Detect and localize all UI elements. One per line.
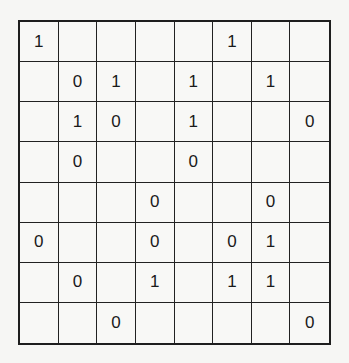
grid-cell-r5-c5[interactable] (175, 183, 214, 223)
grid-cell-r3-c1[interactable] (20, 102, 59, 142)
grid-cell-r6-c6[interactable]: 0 (213, 223, 252, 263)
grid-cell-r6-c3[interactable] (97, 223, 136, 263)
grid-cell-r3-c6[interactable] (213, 102, 252, 142)
grid-cell-r7-c3[interactable] (97, 263, 136, 303)
grid-cell-r3-c5[interactable]: 1 (175, 102, 214, 142)
grid-cell-r2-c5[interactable]: 1 (175, 62, 214, 102)
grid-cell-r7-c4[interactable]: 1 (136, 263, 175, 303)
grid-cell-r2-c6[interactable] (213, 62, 252, 102)
grid-cell-r8-c3[interactable]: 0 (97, 303, 136, 343)
grid-cell-r7-c8[interactable] (290, 263, 329, 303)
grid-cell-r4-c5[interactable]: 0 (175, 142, 214, 182)
grid-cell-r5-c3[interactable] (97, 183, 136, 223)
grid-cell-r1-c1[interactable]: 1 (20, 22, 59, 62)
grid-cell-r3-c7[interactable] (252, 102, 291, 142)
grid-cell-r1-c8[interactable] (290, 22, 329, 62)
grid-cell-r6-c5[interactable] (175, 223, 214, 263)
grid-cell-r4-c6[interactable] (213, 142, 252, 182)
grid-cell-r8-c7[interactable] (252, 303, 291, 343)
grid-cell-r1-c5[interactable] (175, 22, 214, 62)
grid-cell-r5-c4[interactable]: 0 (136, 183, 175, 223)
grid-cell-r7-c1[interactable] (20, 263, 59, 303)
grid-cell-r8-c8[interactable]: 0 (290, 303, 329, 343)
grid-cell-r8-c1[interactable] (20, 303, 59, 343)
grid-cell-r7-c2[interactable]: 0 (59, 263, 98, 303)
grid-cell-r5-c6[interactable] (213, 183, 252, 223)
grid-cell-r1-c4[interactable] (136, 22, 175, 62)
grid-cell-r4-c7[interactable] (252, 142, 291, 182)
grid-cell-r6-c2[interactable] (59, 223, 98, 263)
grid-cell-r7-c6[interactable]: 1 (213, 263, 252, 303)
grid-cell-r2-c4[interactable] (136, 62, 175, 102)
grid-cell-r3-c4[interactable] (136, 102, 175, 142)
grid-cell-r4-c3[interactable] (97, 142, 136, 182)
grid-cell-r6-c1[interactable]: 0 (20, 223, 59, 263)
grid-cell-r2-c7[interactable]: 1 (252, 62, 291, 102)
grid-cell-r5-c7[interactable]: 0 (252, 183, 291, 223)
grid-cell-r8-c5[interactable] (175, 303, 214, 343)
grid-cell-r6-c4[interactable]: 0 (136, 223, 175, 263)
grid-cell-r6-c7[interactable]: 1 (252, 223, 291, 263)
grid-cell-r4-c8[interactable] (290, 142, 329, 182)
grid-cell-r4-c1[interactable] (20, 142, 59, 182)
grid-cell-r8-c6[interactable] (213, 303, 252, 343)
grid-cell-r5-c2[interactable] (59, 183, 98, 223)
grid-cell-r1-c3[interactable] (97, 22, 136, 62)
grid-cell-r1-c6[interactable]: 1 (213, 22, 252, 62)
grid-cell-r2-c1[interactable] (20, 62, 59, 102)
grid-cell-r3-c8[interactable]: 0 (290, 102, 329, 142)
grid-cell-r7-c7[interactable]: 1 (252, 263, 291, 303)
grid-cell-r3-c3[interactable]: 0 (97, 102, 136, 142)
puzzle-grid: 110111101000000001011100 (18, 20, 331, 345)
grid-cell-r4-c2[interactable]: 0 (59, 142, 98, 182)
grid-cell-r5-c1[interactable] (20, 183, 59, 223)
grid-cell-r1-c7[interactable] (252, 22, 291, 62)
grid-cell-r3-c2[interactable]: 1 (59, 102, 98, 142)
grid-cell-r6-c8[interactable] (290, 223, 329, 263)
grid-cell-r8-c4[interactable] (136, 303, 175, 343)
grid-cell-r2-c8[interactable] (290, 62, 329, 102)
grid-cell-r4-c4[interactable] (136, 142, 175, 182)
grid-cell-r5-c8[interactable] (290, 183, 329, 223)
puzzle-page: 110111101000000001011100 (0, 0, 349, 363)
grid-cell-r8-c2[interactable] (59, 303, 98, 343)
grid-cell-r1-c2[interactable] (59, 22, 98, 62)
grid-cell-r7-c5[interactable] (175, 263, 214, 303)
grid-cell-r2-c2[interactable]: 0 (59, 62, 98, 102)
grid-cell-r2-c3[interactable]: 1 (97, 62, 136, 102)
